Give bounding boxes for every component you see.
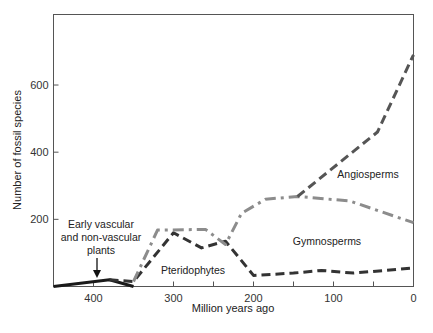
x-tick-label: 100 — [324, 292, 342, 304]
label-gymnosperms: Gymnosperms — [293, 235, 361, 247]
arrow-down-icon — [93, 270, 101, 278]
x-axis-title: Million years ago — [192, 302, 275, 314]
y-tick-label: 600 — [30, 79, 48, 91]
x-tick-label: 400 — [84, 292, 102, 304]
y-tick-label: 200 — [30, 213, 48, 225]
series-line-pteridophytes — [110, 233, 414, 282]
annotation-early-line3: plants — [87, 244, 115, 256]
y-tick-label: 400 — [30, 146, 48, 158]
fossil-species-chart: 200400600 4003002001000 Million years ag… — [0, 0, 433, 333]
x-axis-ticks: 4003002001000 — [84, 282, 416, 304]
y-axis-title: Number of fossil species — [11, 90, 23, 210]
y-axis-ticks: 200400600 — [30, 79, 58, 225]
x-tick-label: 0 — [410, 292, 416, 304]
x-tick-label: 300 — [164, 292, 182, 304]
label-pteridophytes: Pteridophytes — [161, 264, 225, 276]
annotation-early-plants: Early vascular and non-vascular plants — [61, 218, 142, 278]
annotation-early-line1: Early vascular — [68, 218, 134, 230]
annotation-early-line2: and non-vascular — [61, 231, 142, 243]
label-angiosperms: Angiosperms — [337, 168, 398, 180]
